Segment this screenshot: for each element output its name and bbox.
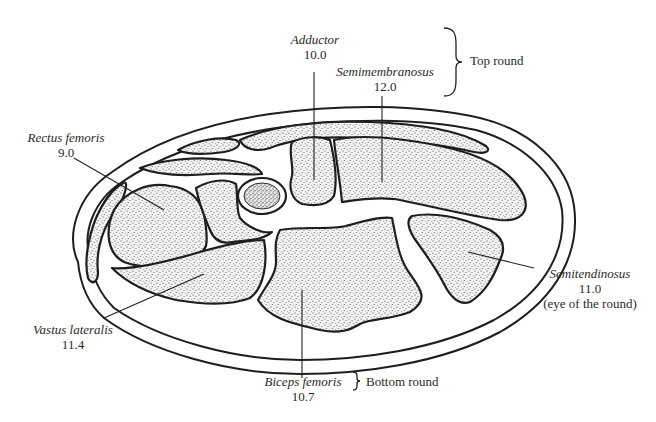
adductor-label: Adductor 10.0 [286,32,344,62]
semitendinosus-value: 11.0 [532,281,648,296]
biceps-femoris-value: 10.7 [258,389,348,404]
rectus-femoris-value: 9.0 [20,145,112,160]
semimembranosus-label: Semimembranosus 12.0 [330,64,440,94]
adductor-value: 10.0 [286,47,344,62]
bottom-round-brace [353,372,360,390]
semimembranosus-name: Semimembranosus [330,64,440,79]
adductor-name: Adductor [286,32,344,47]
bottom-round-group-label: Bottom round [366,374,439,390]
semitendinosus-label: Semitendinosus 11.0 (eye of the round) [532,266,648,311]
top-round-brace [444,28,462,96]
rectus-femoris-name: Rectus femoris [20,130,112,145]
rectus-femoris-label: Rectus femoris 9.0 [20,130,112,160]
vastus-lateralis-name: Vastus lateralis [30,322,116,337]
top-round-group-label: Top round [470,53,524,69]
vastus-lateralis-label: Vastus lateralis 11.4 [30,322,116,352]
semitendinosus-note: (eye of the round) [532,296,648,311]
biceps-femoris-name: Biceps femoris [258,374,348,389]
biceps-femoris-label: Biceps femoris 10.7 [258,374,348,404]
semitendinosus-name: Semitendinosus [532,266,648,281]
femur-bone-marrow [244,183,280,209]
vastus-lateralis-value: 11.4 [30,337,116,352]
adductor-muscle [290,137,335,205]
semimembranosus-value: 12.0 [330,79,440,94]
round-cross-section-diagram [0,0,656,422]
